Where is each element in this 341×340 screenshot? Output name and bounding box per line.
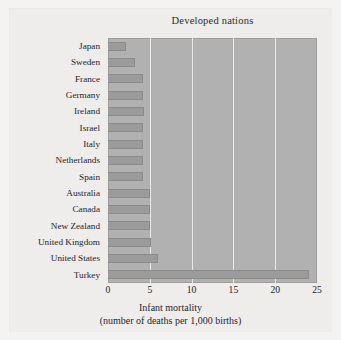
category-label-united-kingdom: United Kingdom bbox=[0, 234, 104, 250]
bar-italy bbox=[108, 140, 143, 149]
bar-sweden bbox=[108, 58, 135, 67]
bar-spain bbox=[108, 172, 143, 181]
category-label-canada: Canada bbox=[0, 201, 104, 217]
bar-france bbox=[108, 74, 143, 83]
bar-israel bbox=[108, 123, 143, 132]
category-label-turkey: Turkey bbox=[0, 267, 104, 283]
category-label-australia: Australia bbox=[0, 185, 104, 201]
category-label-ireland: Ireland bbox=[0, 103, 104, 119]
bar-row bbox=[108, 185, 317, 201]
category-label-netherlands: Netherlands bbox=[0, 152, 104, 168]
category-label-united-states: United States bbox=[0, 250, 104, 266]
bar-japan bbox=[108, 42, 126, 51]
chart-figure: Developed nations JapanSwedenFranceGerma… bbox=[0, 0, 341, 340]
bar-new-zealand bbox=[108, 221, 150, 230]
x-axis-title-line-1: Infant mortality bbox=[9, 301, 332, 314]
chart-title: Developed nations bbox=[108, 15, 317, 26]
bar-row bbox=[108, 152, 317, 168]
category-label-israel: Israel bbox=[0, 120, 104, 136]
x-tick-label-15: 15 bbox=[229, 284, 239, 295]
category-label-germany: Germany bbox=[0, 87, 104, 103]
bar-row bbox=[108, 201, 317, 217]
bar-netherlands bbox=[108, 156, 143, 165]
category-label-sweden: Sweden bbox=[0, 54, 104, 70]
category-label-italy: Italy bbox=[0, 136, 104, 152]
bar-row bbox=[108, 169, 317, 185]
bar-row bbox=[108, 120, 317, 136]
x-axis-title: Infant mortality (number of deaths per 1… bbox=[9, 301, 332, 327]
category-label-japan: Japan bbox=[0, 38, 104, 54]
bar-canada bbox=[108, 205, 150, 214]
bar-row bbox=[108, 218, 317, 234]
category-label-spain: Spain bbox=[0, 169, 104, 185]
x-tick-label-25: 25 bbox=[312, 284, 322, 295]
category-label-new-zealand: New Zealand bbox=[0, 218, 104, 234]
bar-row bbox=[108, 54, 317, 70]
bar-row bbox=[108, 38, 317, 54]
category-label-france: France bbox=[0, 71, 104, 87]
bar-turkey bbox=[108, 270, 309, 279]
bar-series bbox=[108, 38, 317, 283]
bar-united-states bbox=[108, 254, 158, 263]
x-tick-label-10: 10 bbox=[187, 284, 197, 295]
x-tick-label-0: 0 bbox=[106, 284, 111, 295]
x-axis-tick-labels: 0510152025 bbox=[108, 283, 317, 299]
bar-row bbox=[108, 87, 317, 103]
bar-australia bbox=[108, 189, 150, 198]
category-axis-labels: JapanSwedenFranceGermanyIrelandIsraelIta… bbox=[0, 38, 104, 283]
bar-row bbox=[108, 103, 317, 119]
bar-united-kingdom bbox=[108, 238, 151, 247]
bar-row bbox=[108, 71, 317, 87]
bar-row bbox=[108, 267, 317, 283]
bar-germany bbox=[108, 91, 143, 100]
bar-row bbox=[108, 250, 317, 266]
bar-row bbox=[108, 136, 317, 152]
x-tick-label-20: 20 bbox=[270, 284, 280, 295]
bar-row bbox=[108, 234, 317, 250]
bar-ireland bbox=[108, 107, 144, 116]
x-axis-title-line-2: (number of deaths per 1,000 births) bbox=[9, 314, 332, 327]
plot-area bbox=[108, 38, 317, 283]
x-tick-label-5: 5 bbox=[147, 284, 152, 295]
